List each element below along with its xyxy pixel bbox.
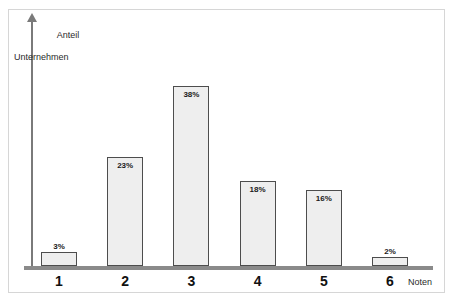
y-axis-label-line2: Unternehmen bbox=[14, 52, 104, 63]
bar-value-3: 38% bbox=[174, 90, 208, 99]
x-tick-label-1: 1 bbox=[41, 273, 77, 289]
x-tick-label-3: 3 bbox=[173, 273, 209, 289]
y-axis-label-line1: Anteil bbox=[14, 30, 104, 41]
bar-3[interactable]: 38% bbox=[173, 86, 209, 267]
x-axis-line bbox=[24, 266, 433, 270]
plot-area: Anteil Unternehmen Noten 3% 23% 38% 18% … bbox=[0, 0, 454, 303]
bar-1[interactable]: 3% bbox=[41, 252, 77, 266]
chart-container: Anteil Unternehmen Noten 3% 23% 38% 18% … bbox=[0, 0, 454, 303]
y-axis-label: Anteil Unternehmen bbox=[14, 19, 104, 74]
bar-6[interactable]: 2% bbox=[372, 257, 408, 267]
bar-value-2: 23% bbox=[108, 161, 142, 170]
x-tick-label-4: 4 bbox=[240, 273, 276, 289]
bar-2[interactable]: 23% bbox=[107, 157, 143, 266]
x-tick-label-5: 5 bbox=[306, 273, 342, 289]
bar-5[interactable]: 16% bbox=[306, 190, 342, 266]
x-axis-label: Noten bbox=[408, 277, 432, 287]
bar-value-1: 3% bbox=[42, 242, 76, 251]
bar-value-5: 16% bbox=[307, 194, 341, 203]
x-tick-label-6: 6 bbox=[372, 273, 408, 289]
bar-value-6: 2% bbox=[373, 247, 407, 256]
bar-value-4: 18% bbox=[241, 185, 275, 194]
bar-4[interactable]: 18% bbox=[240, 181, 276, 267]
x-tick-label-2: 2 bbox=[107, 273, 143, 289]
